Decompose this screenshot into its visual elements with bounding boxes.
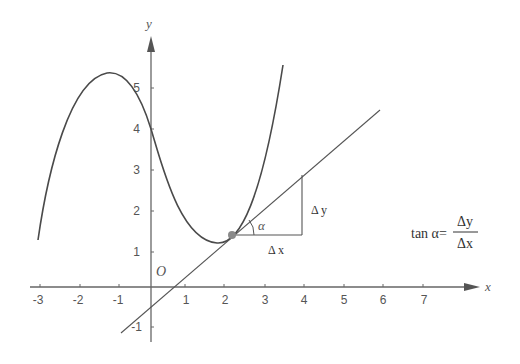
x-tick-label: 1 [183,293,190,307]
tangent-diagram: x -3 -2 -1 1 2 3 4 5 6 7 y [0,0,520,364]
delta-x-label: Δ x [268,243,284,257]
x-tick-label: 6 [380,293,387,307]
x-tick-label: 3 [262,293,269,307]
y-tick-label: 2 [133,204,140,218]
slope-formula: tan α= Δy Δx [411,214,478,251]
y-axis: y [144,16,155,342]
x-tick-label: 5 [341,293,348,307]
function-curve [38,65,283,243]
x-tick-labels: -3 -2 -1 1 2 3 4 5 6 7 [33,293,428,307]
x-tick-label: -3 [33,293,44,307]
angle-label: α [258,218,266,233]
y-tick-label: 1 [133,245,140,259]
y-axis-arrow-icon [147,36,155,52]
x-axis: x [30,279,491,294]
origin-label: O [156,264,166,279]
x-tick-label: 2 [222,293,229,307]
tangent-point [228,231,236,239]
x-axis-arrow-icon [464,283,480,291]
formula-numerator: Δy [457,214,473,229]
y-axis-label: y [144,16,152,31]
delta-y-label: Δ y [311,203,327,217]
x-tick-label: -2 [73,293,84,307]
x-tick-label: 4 [301,293,308,307]
formula-lhs: tan α= [411,226,447,241]
x-tick-label: 7 [421,293,428,307]
y-tick-labels: 5 4 3 2 1 -1 [131,81,142,334]
x-axis-label: x [484,279,491,294]
y-tick-label: 3 [133,163,140,177]
x-tick-label: -1 [113,293,124,307]
formula-denominator: Δx [457,236,473,251]
y-tick-label: 4 [133,122,140,136]
